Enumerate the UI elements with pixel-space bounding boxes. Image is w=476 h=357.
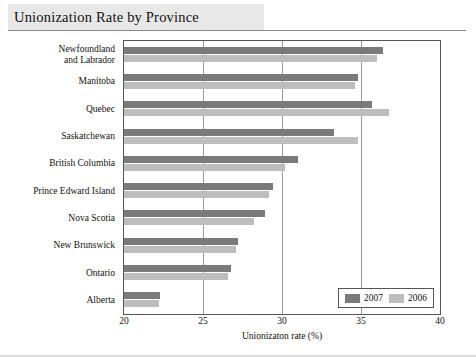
- bar-row: [124, 232, 440, 259]
- legend-item: 2006: [389, 293, 427, 303]
- plot-area: 20072006: [123, 40, 441, 315]
- bar-2006: [124, 218, 254, 225]
- legend-label: 2007: [364, 293, 383, 303]
- bar-2006: [124, 82, 355, 89]
- bar-2007: [124, 47, 383, 54]
- y-axis-label: Saskatchewan: [0, 131, 115, 142]
- x-axis-title: Unionizaton rate (%): [123, 331, 441, 341]
- chart-title-bar: Unionization Rate by Province: [8, 4, 264, 30]
- bar-row: [124, 68, 440, 95]
- x-axis-tick-label: 35: [356, 316, 366, 326]
- bar-2007: [124, 156, 298, 163]
- bar-2006: [124, 109, 389, 116]
- y-axis-label: Manitoba: [0, 76, 115, 87]
- bar-row: [124, 123, 440, 150]
- y-axis-label: Nova Scotia: [0, 213, 115, 224]
- y-axis-label: Ontario: [0, 268, 115, 279]
- x-axis-tick-label: 40: [435, 316, 445, 326]
- bar-2006: [124, 137, 358, 144]
- bar-2006: [124, 191, 269, 198]
- x-axis-tick-label: 30: [277, 316, 287, 326]
- x-axis-tick-label: 25: [198, 316, 208, 326]
- chart-legend: 20072006: [338, 288, 434, 308]
- x-axis-tick-label: 20: [119, 316, 129, 326]
- title-divider: [8, 30, 466, 31]
- bar-row: [124, 41, 440, 68]
- chart-page: Unionization Rate by Province Newfoundla…: [0, 0, 476, 357]
- legend-label: 2006: [408, 293, 427, 303]
- bar-2007: [124, 238, 238, 245]
- bar-2007: [124, 292, 160, 299]
- bar-row: [124, 205, 440, 232]
- plot-inner: [124, 41, 440, 314]
- bar-row: [124, 259, 440, 286]
- y-axis-label: New Brunswick: [0, 240, 115, 251]
- bar-2006: [124, 246, 236, 253]
- bar-2006: [124, 164, 285, 171]
- y-axis-label: Prince Edward Island: [0, 186, 115, 197]
- bar-2007: [124, 265, 231, 272]
- bar-row: [124, 96, 440, 123]
- bar-row: [124, 178, 440, 205]
- legend-item: 2007: [345, 293, 383, 303]
- y-axis-label: Quebec: [0, 104, 115, 115]
- y-axis-label: British Columbia: [0, 158, 115, 169]
- bar-2007: [124, 210, 265, 217]
- bar-rows: [124, 41, 440, 314]
- y-axis-label: Alberta: [0, 295, 115, 306]
- bar-2006: [124, 273, 228, 280]
- y-axis-labels: Newfoundlandand LabradorManitobaQuebecSa…: [0, 40, 120, 315]
- page-title: Unionization Rate by Province: [8, 9, 199, 26]
- bar-2007: [124, 74, 358, 81]
- legend-swatch: [345, 294, 360, 303]
- bar-2006: [124, 55, 377, 62]
- bar-2007: [124, 183, 273, 190]
- legend-swatch: [389, 294, 404, 303]
- x-axis-ticks: 2025303540: [123, 316, 441, 330]
- y-axis-label: Newfoundlandand Labrador: [0, 44, 115, 66]
- bar-2007: [124, 129, 334, 136]
- bar-row: [124, 150, 440, 177]
- bar-2006: [124, 300, 159, 307]
- bar-2007: [124, 101, 372, 108]
